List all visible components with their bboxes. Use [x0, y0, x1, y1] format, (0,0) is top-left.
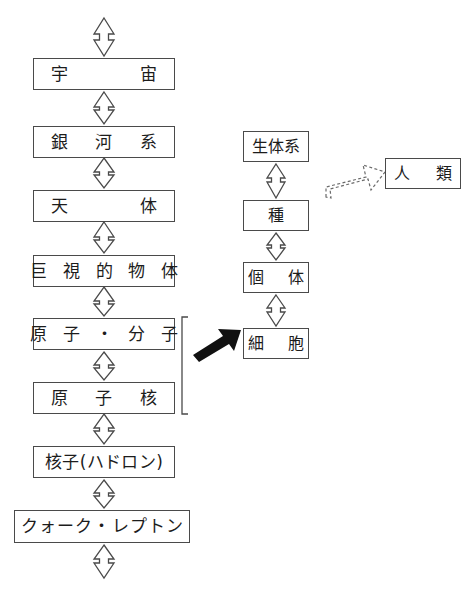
box-jinrui[interactable]: 人 類 [385, 158, 461, 189]
box-ginga-label: 銀 河 系 [46, 134, 162, 151]
double-headed-arrow-kaku-hadron [94, 414, 114, 444]
box-uchu[interactable]: 宇 宙 [33, 58, 175, 90]
box-shu-label: 種 [268, 208, 285, 224]
double-headed-arrow-genshi-kaku [94, 352, 114, 380]
double-headed-arrow-uchu-ginga [94, 92, 114, 124]
box-kotai[interactable]: 個 体 [243, 262, 309, 293]
box-quark-lepton-label: クォーク・レプトン [20, 518, 183, 535]
dashed-block-arrow [326, 165, 385, 198]
box-quark-lepton[interactable]: クォーク・レプトン [14, 510, 190, 543]
double-headed-arrow-top [94, 18, 114, 56]
double-headed-arrow-seitaikei-shu [267, 164, 285, 198]
double-headed-arrow-kotai-saibo [267, 295, 285, 326]
double-headed-arrow-bottom [94, 545, 114, 578]
box-shu[interactable]: 種 [243, 200, 309, 231]
box-ginga[interactable]: 銀 河 系 [33, 126, 175, 158]
box-kotai-label: 個 体 [244, 270, 309, 286]
box-tentai-label: 天 体 [46, 198, 162, 215]
right-column-connectors [267, 164, 285, 326]
box-genshi-bunshi-label: 原 子 ・ 分 子 [25, 326, 183, 343]
box-seitaikei-label: 生体系 [251, 139, 300, 155]
box-saibo-label: 細 胞 [244, 336, 309, 352]
box-hadron-label: 核子(ハドロン) [45, 454, 163, 471]
box-jinrui-label: 人 類 [388, 166, 458, 182]
box-kyoshitekibuttai-label: 巨 視 的 物 体 [25, 263, 183, 280]
double-headed-arrow-ginga-tentai [94, 158, 114, 188]
box-genshi-bunshi[interactable]: 原 子 ・ 分 子 [33, 318, 175, 350]
box-genshikaku-label: 原 子 核 [46, 390, 162, 407]
box-kyoshitekibuttai[interactable]: 巨 視 的 物 体 [33, 255, 175, 287]
left-column-connectors [94, 18, 114, 578]
double-headed-arrow-shu-kotai [267, 233, 285, 260]
box-tentai[interactable]: 天 体 [33, 190, 175, 222]
box-saibo[interactable]: 細 胞 [243, 328, 309, 359]
double-headed-arrow-tentai-kyoshi [94, 222, 114, 253]
double-headed-arrow-hadron-quark [94, 480, 114, 508]
solid-block-arrow [193, 329, 241, 362]
box-uchu-label: 宇 宙 [46, 66, 162, 83]
double-headed-arrow-kyoshi-genshi [94, 287, 114, 316]
box-hadron[interactable]: 核子(ハドロン) [33, 446, 175, 478]
box-genshikaku[interactable]: 原 子 核 [33, 382, 175, 414]
grouping-bracket [182, 317, 188, 414]
box-seitaikei[interactable]: 生体系 [243, 131, 309, 162]
